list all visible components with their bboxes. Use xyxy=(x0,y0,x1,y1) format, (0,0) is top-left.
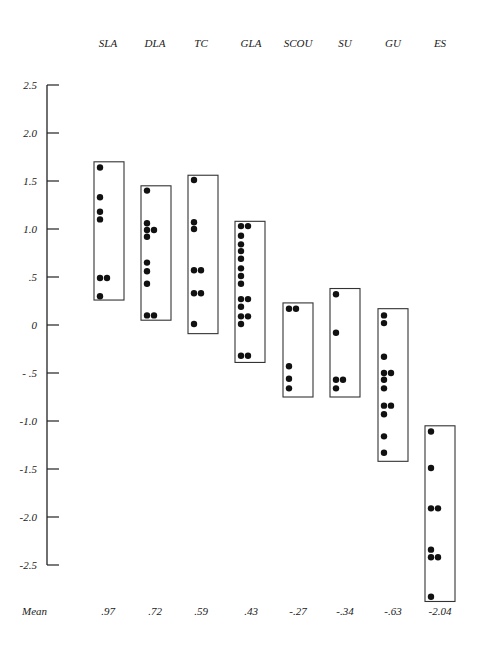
y-tick-label: -1.0 xyxy=(0,415,37,427)
y-tick-label: 0 xyxy=(0,319,37,331)
data-point xyxy=(381,449,387,455)
dot-plot-chart: 2.52.01.51.0.50- .5-1.0-1.5-2.0-2.5SLA.9… xyxy=(0,0,480,649)
mean-value-tc: .59 xyxy=(194,605,208,617)
data-point xyxy=(151,227,157,233)
y-tick-label: .5 xyxy=(0,271,37,283)
data-point xyxy=(381,320,387,326)
data-point xyxy=(238,273,244,279)
mean-value-es: -2.04 xyxy=(429,605,452,617)
data-point xyxy=(238,321,244,327)
range-box-scou xyxy=(283,303,313,397)
mean-value-gla: .43 xyxy=(244,605,258,617)
data-point xyxy=(428,465,434,471)
y-tick-label: -2.5 xyxy=(0,559,37,571)
data-point xyxy=(97,293,103,299)
data-point xyxy=(144,259,150,265)
data-point xyxy=(151,312,157,318)
category-label-su: SU xyxy=(338,37,351,49)
data-point xyxy=(238,353,244,359)
data-point xyxy=(388,402,394,408)
data-point xyxy=(97,275,103,281)
data-point xyxy=(191,226,197,232)
data-point xyxy=(428,546,434,552)
mean-value-su: -.34 xyxy=(336,605,353,617)
data-point xyxy=(238,233,244,239)
category-label-dla: DLA xyxy=(145,37,166,49)
range-box-tc xyxy=(188,175,218,333)
data-point xyxy=(97,209,103,215)
data-point xyxy=(381,353,387,359)
data-point xyxy=(144,220,150,226)
mean-value-scou: -.27 xyxy=(289,605,306,617)
data-point xyxy=(97,164,103,170)
category-label-tc: TC xyxy=(194,37,207,49)
data-point xyxy=(191,219,197,225)
data-point xyxy=(238,281,244,287)
y-tick-label: 1.5 xyxy=(0,175,37,187)
range-box-dla xyxy=(141,186,171,320)
data-point xyxy=(191,267,197,273)
category-label-es: ES xyxy=(434,37,446,49)
range-box-es xyxy=(425,426,455,602)
data-point xyxy=(293,305,299,311)
data-point xyxy=(144,187,150,193)
data-point xyxy=(245,223,251,229)
category-label-gla: GLA xyxy=(241,37,262,49)
data-point xyxy=(381,385,387,391)
data-point xyxy=(428,554,434,560)
data-point xyxy=(245,313,251,319)
data-point xyxy=(191,290,197,296)
data-point xyxy=(97,216,103,222)
category-label-gu: GU xyxy=(385,37,401,49)
data-point xyxy=(428,428,434,434)
data-point xyxy=(286,305,292,311)
plot-area xyxy=(0,0,480,649)
data-point xyxy=(381,402,387,408)
data-point xyxy=(286,363,292,369)
y-tick-label: -1.5 xyxy=(0,463,37,475)
mean-value-dla: .72 xyxy=(148,605,162,617)
mean-value-sla: .97 xyxy=(101,605,115,617)
data-point xyxy=(286,376,292,382)
data-point xyxy=(333,377,339,383)
data-point xyxy=(144,268,150,274)
data-point xyxy=(144,281,150,287)
data-point xyxy=(245,296,251,302)
data-point xyxy=(144,312,150,318)
data-point xyxy=(238,241,244,247)
data-point xyxy=(238,313,244,319)
data-point xyxy=(198,267,204,273)
data-point xyxy=(198,290,204,296)
data-point xyxy=(144,233,150,239)
data-point xyxy=(428,593,434,599)
y-tick-label: - .5 xyxy=(0,367,37,379)
y-tick-label: 2.0 xyxy=(0,127,37,139)
y-tick-label: 2.5 xyxy=(0,79,37,91)
data-point xyxy=(428,505,434,511)
data-point xyxy=(388,370,394,376)
data-point xyxy=(238,223,244,229)
data-point xyxy=(97,194,103,200)
data-point xyxy=(333,291,339,297)
data-point xyxy=(435,505,441,511)
data-point xyxy=(238,256,244,262)
data-point xyxy=(381,377,387,383)
data-point xyxy=(144,227,150,233)
data-point xyxy=(238,248,244,254)
mean-value-gu: -.63 xyxy=(384,605,401,617)
data-point xyxy=(381,411,387,417)
data-point xyxy=(191,321,197,327)
data-point xyxy=(286,385,292,391)
y-tick-label: 1.0 xyxy=(0,223,37,235)
mean-row-label: Mean xyxy=(22,605,47,617)
data-point xyxy=(238,296,244,302)
data-point xyxy=(191,177,197,183)
data-point xyxy=(104,275,110,281)
data-point xyxy=(333,385,339,391)
data-point xyxy=(340,377,346,383)
y-tick-label: -2.0 xyxy=(0,511,37,523)
category-label-scou: SCOU xyxy=(284,37,313,49)
data-point xyxy=(381,433,387,439)
data-point xyxy=(435,554,441,560)
data-point xyxy=(245,353,251,359)
